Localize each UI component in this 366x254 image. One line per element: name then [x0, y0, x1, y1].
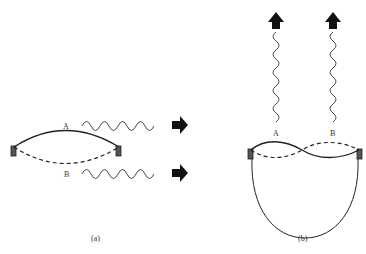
- caption-a: (a): [91, 234, 100, 243]
- wave-a-horizontal: [82, 122, 154, 131]
- panel-b: A B (b): [248, 12, 362, 243]
- arrow-up-icon: [325, 12, 341, 29]
- wave-b-horizontal: [82, 170, 154, 179]
- arrow-right-icon: [172, 116, 188, 134]
- label-b-panel-a: B: [64, 170, 69, 179]
- label-a-panel-b: A: [273, 129, 279, 138]
- enclosure-bowl: [252, 158, 358, 238]
- label-b-panel-b: B: [330, 129, 335, 138]
- label-a-panel-a: A: [63, 122, 69, 131]
- caption-b: (b): [298, 234, 308, 243]
- mode-a-solid-curve: [14, 131, 119, 148]
- mode-a-solid-curve: [251, 142, 359, 158]
- wave-a-vertical: [273, 32, 279, 122]
- mode-b-dashed-curve: [251, 143, 359, 158]
- arrow-right-icon: [172, 164, 188, 182]
- wave-b-vertical: [330, 32, 336, 122]
- mode-b-dashed-curve: [14, 147, 119, 164]
- arrow-up-icon: [268, 12, 284, 29]
- panel-a: A B (a): [11, 116, 188, 243]
- diagram-canvas: A B (a) A B (b): [0, 0, 366, 254]
